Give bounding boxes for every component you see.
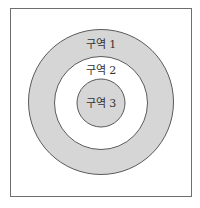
zone-diagram: 구역 1 구역 2 구역 3: [0, 0, 200, 208]
zone-3-label: 구역 3: [86, 97, 117, 110]
zone-2-label: 구역 2: [86, 64, 117, 77]
zone-1-label: 구역 1: [86, 38, 117, 51]
